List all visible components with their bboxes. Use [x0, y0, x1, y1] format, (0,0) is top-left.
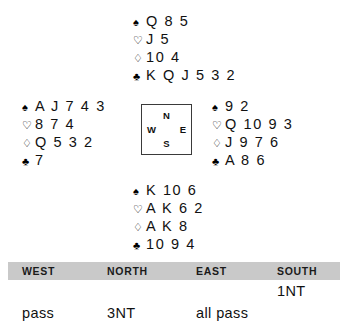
auction-header-west: WEST: [22, 262, 55, 280]
club-icon: ♣: [133, 67, 146, 85]
hand-east-spades: 9 2: [225, 97, 250, 115]
compass-label-west: W: [147, 125, 156, 135]
spade-icon: ♠: [133, 13, 146, 31]
hand-west-hearts: 8 7 4: [35, 115, 75, 133]
club-icon: ♣: [212, 152, 225, 170]
hand-south-clubs: 10 9 4: [146, 235, 196, 253]
hand-west: ♠ A J 7 4 3 ♡ 8 7 4 ♢ Q 5 3 2 ♣ 7: [22, 97, 106, 169]
auction-row: 1NT: [0, 282, 364, 300]
hand-west-hearts-row: ♡ 8 7 4: [22, 115, 106, 133]
hand-west-diamonds: Q 5 3 2: [35, 133, 94, 151]
hand-north: ♠ Q 8 5 ♡ J 5 ♢ 10 4 ♣ K Q J 5 3 2: [133, 12, 236, 84]
compass-box: N W E S: [141, 104, 192, 155]
compass-label-north: N: [142, 111, 191, 121]
hand-east-diamonds-row: ♢ J 9 7 6: [212, 133, 293, 151]
diamond-icon: ♢: [212, 134, 225, 152]
auction-header-south: SOUTH: [277, 262, 317, 280]
club-icon: ♣: [133, 236, 146, 254]
hand-south-diamonds-row: ♢ A K 8: [133, 217, 204, 235]
heart-icon: ♡: [22, 116, 35, 134]
hand-north-clubs: K Q J 5 3 2: [146, 66, 236, 84]
auction-bid-north: 3NT: [107, 304, 136, 322]
hand-west-diamonds-row: ♢ Q 5 3 2: [22, 133, 106, 151]
hand-north-spades: Q 8 5: [146, 12, 189, 30]
hand-south-spades: K 10 6: [146, 181, 198, 199]
spade-icon: ♠: [22, 98, 35, 116]
bridge-deal-diagram: ♠ Q 8 5 ♡ J 5 ♢ 10 4 ♣ K Q J 5 3 2 ♠ A J…: [0, 0, 364, 258]
hand-east-hearts: Q 10 9 3: [225, 115, 293, 133]
auction-header-row: WEST NORTH EAST SOUTH: [0, 262, 364, 280]
heart-icon: ♡: [212, 116, 225, 134]
auction-row: pass 3NT all pass: [0, 304, 364, 322]
hand-west-spades: A J 7 4 3: [35, 97, 106, 115]
hand-east-clubs: A 8 6: [225, 151, 266, 169]
hand-east-diamonds: J 9 7 6: [225, 133, 280, 151]
heart-icon: ♡: [133, 200, 146, 218]
auction-table: WEST NORTH EAST SOUTH 1NT pass 3NT all p…: [0, 262, 364, 336]
hand-south: ♠ K 10 6 ♡ A K 6 2 ♢ A K 8 ♣ 10 9 4: [133, 181, 204, 253]
hand-west-clubs: 7: [35, 151, 45, 169]
hand-north-clubs-row: ♣ K Q J 5 3 2: [133, 66, 236, 84]
hand-east-clubs-row: ♣ A 8 6: [212, 151, 293, 169]
club-icon: ♣: [22, 152, 35, 170]
auction-bid-south: 1NT: [277, 282, 306, 300]
auction-header-east: EAST: [196, 262, 227, 280]
hand-south-hearts-row: ♡ A K 6 2: [133, 199, 204, 217]
hand-west-clubs-row: ♣ 7: [22, 151, 106, 169]
hand-east: ♠ 9 2 ♡ Q 10 9 3 ♢ J 9 7 6 ♣ A 8 6: [212, 97, 293, 169]
hand-north-diamonds-row: ♢ 10 4: [133, 48, 236, 66]
hand-west-spades-row: ♠ A J 7 4 3: [22, 97, 106, 115]
hand-north-hearts: J 5: [146, 30, 170, 48]
hand-south-spades-row: ♠ K 10 6: [133, 181, 204, 199]
hand-north-diamonds: 10 4: [146, 48, 181, 66]
hand-north-spades-row: ♠ Q 8 5: [133, 12, 236, 30]
compass-label-south: S: [142, 139, 191, 149]
diamond-icon: ♢: [133, 49, 146, 67]
spade-icon: ♠: [133, 182, 146, 200]
diamond-icon: ♢: [22, 134, 35, 152]
hand-south-hearts: A K 6 2: [146, 199, 204, 217]
hand-east-hearts-row: ♡ Q 10 9 3: [212, 115, 293, 133]
hand-north-hearts-row: ♡ J 5: [133, 30, 236, 48]
compass-label-east: E: [180, 125, 186, 135]
auction-bid-west: pass: [22, 304, 54, 322]
auction-header-north: NORTH: [107, 262, 148, 280]
diamond-icon: ♢: [133, 218, 146, 236]
heart-icon: ♡: [133, 31, 146, 49]
auction-bid-east: all pass: [196, 304, 248, 322]
hand-east-spades-row: ♠ 9 2: [212, 97, 293, 115]
hand-south-diamonds: A K 8: [146, 217, 189, 235]
hand-south-clubs-row: ♣ 10 9 4: [133, 235, 204, 253]
spade-icon: ♠: [212, 98, 225, 116]
